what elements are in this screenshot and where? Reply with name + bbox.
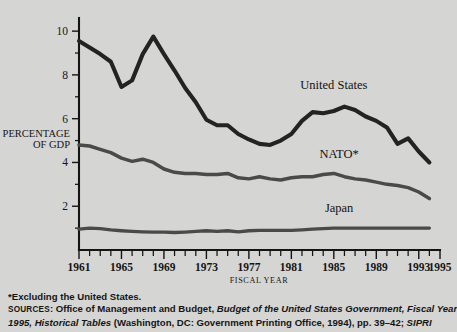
data-series-group	[79, 37, 429, 233]
footnotes-block: *Excluding the United States. SOURCES: O…	[8, 291, 452, 329]
x-axis-tick-labels: 1961196519691973197719811985198919931995	[68, 261, 452, 273]
y-tick-label: 2	[62, 200, 68, 212]
military-spending-line-chart: 246810 196119651969197319771981198519891…	[0, 0, 452, 292]
series-line-united-states	[79, 37, 429, 163]
x-tick-label: 1989	[365, 261, 388, 273]
sources-label: SOURCES	[8, 305, 50, 314]
x-tick-label: 1965	[110, 261, 133, 273]
sources-italic-b: 1995, Historical Tables	[8, 317, 111, 328]
x-tick-label: 1961	[68, 261, 91, 273]
series-inline-labels: United StatesNATO*Japan	[300, 78, 367, 215]
sources-text-a: : Office of Management and Budget,	[50, 303, 217, 314]
x-axis-title: FISCAL YEAR	[230, 276, 289, 285]
chart-plot-area: 246810 196119651969197319771981198519891…	[0, 0, 452, 292]
footnote-sources-line1: SOURCES: Office of Management and Budget…	[8, 303, 452, 316]
y-tick-label: 4	[62, 156, 68, 168]
series-line-japan	[79, 228, 429, 232]
sources-italic-c: SIPRI	[407, 317, 432, 328]
footnote-sources-line2: 1995, Historical Tables (Washington, DC:…	[8, 317, 452, 329]
x-tick-label: 1993	[407, 261, 430, 273]
series-label-japan: Japan	[325, 201, 354, 215]
y-axis-title-line1: PERCENTAGE	[3, 128, 70, 139]
y-tick-label: 8	[62, 69, 68, 81]
x-tick-label: 1977	[237, 261, 260, 273]
axes	[79, 18, 440, 250]
y-tick-label: 10	[57, 25, 69, 37]
x-axis-ticks	[79, 250, 440, 259]
y-tick-label: 6	[62, 113, 68, 125]
sources-italic-a: Budget of the United States Government, …	[217, 303, 457, 314]
sources-text-b: (Washington, DC: Government Printing Off…	[111, 317, 407, 328]
footnote-asterisk: *Excluding the United States.	[8, 291, 452, 303]
x-tick-label: 1973	[195, 261, 218, 273]
x-tick-label: 1981	[280, 261, 303, 273]
series-label-united-states: United States	[300, 78, 367, 92]
series-line-nato	[79, 145, 429, 199]
x-tick-label: 1985	[322, 261, 345, 273]
x-tick-label: 1969	[152, 261, 175, 273]
x-tick-label: 1995	[429, 261, 452, 273]
y-axis-title-line2: OF GDP	[33, 139, 70, 150]
series-label-nato: NATO*	[319, 147, 358, 161]
y-axis-tick-labels: 246810	[57, 25, 69, 212]
